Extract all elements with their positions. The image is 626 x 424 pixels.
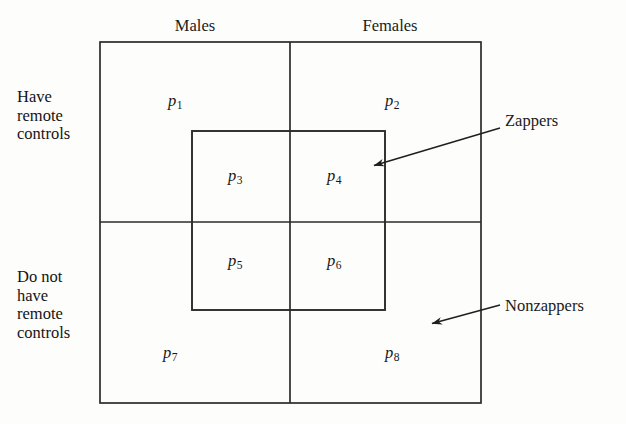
- cell-label-p1: p1: [168, 92, 182, 111]
- nonzappers-callout-arrow: [432, 305, 500, 324]
- cell-label-p1-base: p: [168, 91, 176, 110]
- diagram-canvas: Males Females Have remote controls Do no…: [0, 0, 626, 424]
- callout-label-zappers-text: Zappers: [505, 111, 558, 130]
- cell-label-p8-sub: 8: [394, 351, 400, 363]
- diagram-lines: [0, 0, 626, 424]
- cell-label-p7-sub: 7: [172, 351, 178, 363]
- cell-label-p5: p5: [228, 252, 242, 271]
- callout-label-zappers: Zappers: [505, 111, 558, 130]
- callout-label-nonzappers-text: Nonzappers: [505, 296, 584, 315]
- cell-label-p4: p4: [327, 167, 341, 186]
- cell-label-p2-base: p: [385, 91, 393, 110]
- cell-label-p2: p2: [385, 92, 399, 111]
- cell-label-p6: p6: [327, 252, 341, 271]
- cell-label-p5-sub: 5: [237, 259, 243, 271]
- cell-label-p8-base: p: [385, 343, 393, 362]
- cell-label-p3: p3: [228, 167, 242, 186]
- callout-label-nonzappers: Nonzappers: [505, 296, 584, 315]
- cell-label-p6-sub: 6: [336, 259, 342, 271]
- cell-label-p4-base: p: [327, 166, 335, 185]
- cell-label-p4-sub: 4: [336, 174, 342, 186]
- cell-label-p2-sub: 2: [394, 99, 400, 111]
- cell-label-p8: p8: [385, 344, 399, 363]
- cell-label-p1-sub: 1: [177, 99, 183, 111]
- cell-label-p3-sub: 3: [237, 174, 243, 186]
- cell-label-p3-base: p: [228, 166, 236, 185]
- cell-label-p7: p7: [163, 344, 177, 363]
- cell-label-p7-base: p: [163, 343, 171, 362]
- cell-label-p6-base: p: [327, 251, 335, 270]
- cell-label-p5-base: p: [228, 251, 236, 270]
- inner-rectangle-zappers: [192, 131, 385, 310]
